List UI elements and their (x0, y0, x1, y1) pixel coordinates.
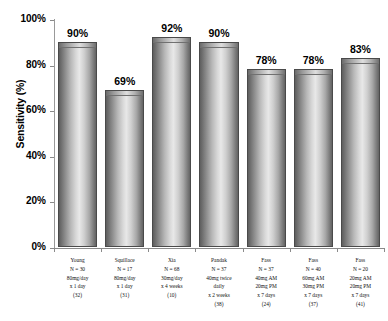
category-label-line: 40mg AM (243, 274, 290, 283)
bar-value-label: 90% (195, 27, 242, 39)
bar-value-label: 83% (337, 43, 384, 55)
bar-cylinder (247, 69, 286, 247)
bar[interactable]: 90% (54, 19, 101, 248)
y-axis-tick: 0% (0, 248, 54, 249)
x-axis-tick-mark (337, 248, 338, 252)
category-label-line: 20mg PM (243, 282, 290, 291)
category-label-line: N = 37 (243, 265, 290, 274)
bar-value-label: 69% (101, 75, 148, 87)
category-label-line: 80mg/day (54, 274, 101, 283)
category-label-line: N = 20 (337, 265, 384, 274)
x-axis-line (54, 248, 385, 249)
y-axis-tick-label: 100% (20, 13, 46, 24)
category-label-line: Xia (148, 256, 195, 265)
category-label-line: (24) (243, 300, 290, 309)
bar-cylinder (58, 42, 97, 247)
bar-cylinder-cap (342, 59, 379, 64)
y-axis-tick: 20% (0, 202, 54, 203)
bar[interactable]: 78% (290, 19, 337, 248)
category-label-line: Young (54, 256, 101, 265)
x-axis-category-label: FassN = 3740mg AM20mg PMx 7 days(24) (243, 256, 290, 309)
bar-cylinder-cap (153, 38, 190, 43)
x-axis-tick-mark (290, 248, 291, 252)
category-label-line: Fass (243, 256, 290, 265)
bar[interactable]: 90% (195, 19, 242, 248)
bar[interactable]: 69% (101, 19, 148, 248)
x-axis-tick-mark (195, 248, 196, 252)
y-axis-tick-label: 40% (26, 150, 46, 161)
x-axis-tick-mark (54, 248, 55, 252)
category-label-line: x 7 days (337, 291, 384, 300)
x-axis-category-label: XiaN = 6830mg/dayx 4 weeks(10) (148, 256, 195, 300)
category-label-line: N = 30 (54, 265, 101, 274)
y-axis-tick: 100% (0, 20, 54, 21)
category-label-line: x 1 day (101, 282, 148, 291)
x-axis-category-label: FassN = 4060mg AM30mg PMx 7 days(37) (290, 256, 337, 309)
category-label-line: 60mg AM (290, 274, 337, 283)
category-label-line: Fass (337, 256, 384, 265)
x-axis-tick-mark (148, 248, 149, 252)
x-axis-category-label: FassN = 2020mg AM20mg PMx 7 days(41) (337, 256, 384, 309)
category-label-line: N = 40 (290, 265, 337, 274)
category-label-line: daily (195, 282, 242, 291)
bar-cylinder (341, 58, 380, 247)
x-axis-tick-mark (243, 248, 244, 252)
x-axis-tick-mark (101, 248, 102, 252)
x-axis-category-label: YoungN = 3080mg/dayx 1 day(32) (54, 256, 101, 300)
bar-cylinder-cap (106, 91, 143, 96)
category-label-line: (38) (195, 300, 242, 309)
category-label-line: 20mg AM (337, 274, 384, 283)
bar-cylinder-cap (248, 70, 285, 75)
category-label-line: 80mg/day (101, 274, 148, 283)
bar-cylinder-cap (295, 70, 332, 75)
category-label-line: Fass (290, 256, 337, 265)
category-label-line: N = 17 (101, 265, 148, 274)
plot-area: 90%69%92%90%78%78%83% (54, 20, 384, 248)
y-axis-tick-label: 20% (26, 195, 46, 206)
bar-cylinder (294, 69, 333, 247)
category-label-line: x 7 days (243, 291, 290, 300)
category-label-line: x 4 weeks (148, 282, 195, 291)
bar[interactable]: 92% (148, 19, 195, 248)
bar[interactable]: 78% (243, 19, 290, 248)
y-axis-tick-label: 0% (32, 241, 46, 252)
category-label-line: 20mg PM (337, 282, 384, 291)
y-axis-tick: 40% (0, 157, 54, 158)
bar-chart: Sensitivity (%) 100%80%60%40%20%0% 90%69… (0, 0, 388, 321)
category-label-line: 30mg PM (290, 282, 337, 291)
category-label-line: (32) (54, 291, 101, 300)
bar-value-label: 92% (148, 22, 195, 34)
category-label-line: (10) (148, 291, 195, 300)
x-axis-tick-mark (384, 248, 385, 252)
category-label-line: 30mg/day (148, 274, 195, 283)
y-axis-tick: 80% (0, 66, 54, 67)
bar-value-label: 78% (243, 54, 290, 66)
bar-value-label: 78% (290, 54, 337, 66)
category-label-line: x 2 weeks (195, 291, 242, 300)
bar[interactable]: 83% (337, 19, 384, 248)
bar-cylinder-cap (200, 43, 237, 48)
bar-cylinder (152, 37, 191, 247)
x-axis-category-label: PandakN = 3740mg twicedailyx 2 weeks(38) (195, 256, 242, 309)
y-axis-tick-label: 80% (26, 59, 46, 70)
y-axis-tick-label: 60% (26, 104, 46, 115)
category-label-line: Pandak (195, 256, 242, 265)
category-label-line: 40mg twice (195, 274, 242, 283)
category-label-line: x 1 day (54, 282, 101, 291)
category-label-line: Squillace (101, 256, 148, 265)
category-label-line: N = 68 (148, 265, 195, 274)
category-label-line: N = 37 (195, 265, 242, 274)
bar-value-label: 90% (54, 27, 101, 39)
category-label-line: (31) (101, 291, 148, 300)
y-axis-tick: 60% (0, 111, 54, 112)
category-label-line: (41) (337, 300, 384, 309)
bar-cylinder-cap (59, 43, 96, 48)
bar-cylinder (199, 42, 238, 247)
category-label-line: x 7 days (290, 291, 337, 300)
bar-cylinder (105, 90, 144, 247)
category-label-line: (37) (290, 300, 337, 309)
x-axis-category-label: SquillaceN = 1780mg/dayx 1 day(31) (101, 256, 148, 300)
